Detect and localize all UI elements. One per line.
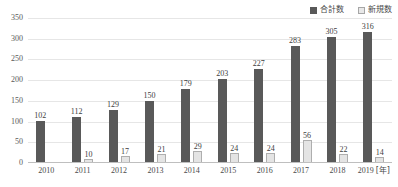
bar-total-2017: 283 [291, 46, 300, 163]
bar-value-new-2014: 29 [194, 142, 202, 151]
bar-value-total-2016: 227 [253, 59, 265, 68]
bar-value-new-2017: 56 [303, 131, 311, 140]
x-tick-2016: 2016 [246, 166, 282, 182]
light-square-icon [358, 7, 365, 14]
bar-group: 12917 [101, 18, 137, 163]
bar-group: 28356 [283, 18, 319, 163]
bar-value-new-2019: 14 [376, 148, 384, 157]
x-axis-unit-label: [年] [376, 166, 390, 175]
bar-group: 15021 [137, 18, 173, 163]
y-tick-200: 200 [11, 76, 23, 84]
bar-new-2017: 56 [303, 140, 312, 163]
bar-value-total-2011: 112 [71, 107, 83, 116]
bar-total-2014: 179 [181, 89, 190, 163]
bar-group: 31614 [356, 18, 392, 163]
bar-value-total-2019: 316 [362, 22, 374, 31]
bar-value-new-2016: 24 [267, 144, 275, 153]
x-tick-2014: 2014 [174, 166, 210, 182]
bar-group: 102 [28, 18, 64, 163]
bar-total-2016: 227 [254, 69, 263, 163]
bar-chart: 合計数 新規数 0 50 100 150 200 250 300 350 102… [0, 0, 398, 187]
x-tick-2019: 2019 [年] [356, 166, 392, 182]
y-axis: 0 50 100 150 200 250 300 350 [0, 18, 26, 163]
bar-group: 17929 [174, 18, 210, 163]
legend-label-total: 合計数 [320, 6, 344, 14]
x-tick-2010: 2010 [28, 166, 64, 182]
x-tick-2015: 2015 [210, 166, 246, 182]
dark-square-icon [310, 7, 317, 14]
bar-value-new-2013: 21 [157, 145, 165, 154]
chart-legend: 合計数 新規数 [310, 3, 392, 17]
plot-area: 1021121012917150211792920324227242835630… [28, 18, 392, 163]
x-tick-2012: 2012 [101, 166, 137, 182]
bar-total-2019: 316 [363, 32, 372, 163]
legend-label-new: 新規数 [368, 6, 392, 14]
y-tick-150: 150 [11, 97, 23, 105]
bar-value-total-2018: 305 [325, 27, 337, 36]
bar-total-2013: 150 [145, 101, 154, 163]
x-tick-2013: 2013 [137, 166, 173, 182]
bar-value-new-2015: 24 [230, 144, 238, 153]
bar-group: 11210 [64, 18, 100, 163]
y-tick-100: 100 [11, 118, 23, 126]
x-axis-line [28, 162, 392, 163]
legend-item-total: 合計数 [310, 6, 344, 14]
x-tick-2018: 2018 [319, 166, 355, 182]
bar-total-2015: 203 [218, 79, 227, 163]
y-tick-50: 50 [15, 138, 23, 146]
bar-value-total-2013: 150 [143, 91, 155, 100]
y-tick-300: 300 [11, 35, 23, 43]
x-tick-2017: 2017 [283, 166, 319, 182]
bar-value-total-2012: 129 [107, 100, 119, 109]
x-axis: 2010201120122013201420152016201720182019… [28, 166, 392, 182]
bar-group: 30522 [319, 18, 355, 163]
bar-group: 22724 [246, 18, 282, 163]
bar-group: 20324 [210, 18, 246, 163]
bar-total-2018: 305 [327, 37, 336, 163]
bar-total-2012: 129 [109, 110, 118, 163]
bar-groups: 1021121012917150211792920324227242835630… [28, 18, 392, 163]
bar-total-2010: 102 [36, 121, 45, 163]
bar-total-2011: 112 [72, 117, 81, 163]
bar-value-total-2017: 283 [289, 36, 301, 45]
bar-value-total-2015: 203 [216, 69, 228, 78]
x-tick-2011: 2011 [64, 166, 100, 182]
y-tick-0: 0 [19, 159, 23, 167]
bar-value-total-2010: 102 [34, 111, 46, 120]
y-tick-250: 250 [11, 55, 23, 63]
legend-item-new: 新規数 [358, 6, 392, 14]
y-tick-350: 350 [11, 14, 23, 22]
bar-value-new-2012: 17 [121, 147, 129, 156]
bar-value-new-2011: 10 [85, 150, 93, 159]
bar-value-new-2018: 22 [339, 145, 347, 154]
bar-value-total-2014: 179 [180, 79, 192, 88]
